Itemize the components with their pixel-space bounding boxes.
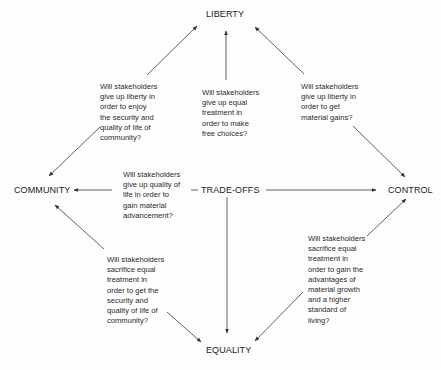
node-equality: EQUALITY (206, 345, 251, 355)
trade-offs-diagram: LIBERTY COMMUNITY TRADE-OFFS CONTROL EQU… (0, 0, 441, 370)
node-control: CONTROL (388, 185, 433, 195)
arrow-to-community-from-top (49, 127, 100, 176)
question-community-control: Will stakeholders give up quality of lif… (123, 170, 180, 221)
node-liberty: LIBERTY (206, 9, 244, 19)
node-community: COMMUNITY (14, 185, 70, 195)
question-equality-liberty: Will stakeholders give up equal treatmen… (202, 88, 259, 139)
arrow-to-control-from-top (353, 126, 405, 177)
node-trade-offs: TRADE-OFFS (201, 185, 260, 195)
question-liberty-community: Will stakeholders give up liberty in ord… (100, 82, 157, 143)
question-equality-community: Will stakeholders sacrifice equal treatm… (107, 255, 164, 326)
question-liberty-control: Will stakeholders give up liberty in ord… (301, 82, 358, 123)
arrow-to-community-from-bottom (55, 205, 104, 249)
arrow-to-control-from-bottom (367, 199, 406, 236)
arrow-to-liberty-from-left (147, 26, 197, 75)
arrow-to-equality-from-right (255, 292, 303, 341)
question-equality-control: Will stakeholders sacrifice equal treatm… (308, 234, 365, 326)
arrow-to-liberty-from-right (255, 27, 304, 74)
arrow-to-equality-from-left (167, 312, 201, 342)
